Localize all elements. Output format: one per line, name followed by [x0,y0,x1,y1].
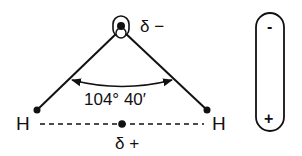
oxygen-atom [113,16,129,38]
hydrogen-left-dot [34,107,41,114]
positive-charge-center-dot [118,120,126,128]
hydrogen-right-dot [204,107,211,114]
hydrogen-right-label: H [212,114,226,133]
dipole-negative-sign: - [267,19,272,35]
dipole-positive-sign: + [264,111,273,127]
hydrogen-left-label: H [16,114,30,133]
bond-angle-arc [72,80,172,87]
bond-angle-label: 104° 40′ [84,91,146,108]
hydrogen-partial-charge-label: δ + [115,135,139,152]
oxygen-partial-charge-label: δ − [140,18,164,35]
